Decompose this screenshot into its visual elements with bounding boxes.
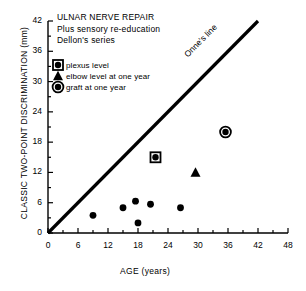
chart-title-line-2: Plus sensory re-education — [57, 24, 160, 34]
data-point-elbow-level-at-one-year — [191, 167, 201, 176]
x-tick-label: 0 — [36, 240, 60, 250]
x-tick-label: 42 — [246, 240, 270, 250]
legend-marker-elbow-level-at-one-year — [53, 71, 63, 80]
legend-marker-graft-at-one-year — [53, 82, 64, 93]
x-tick-label: 12 — [96, 240, 120, 250]
y-tick-label: 36 — [22, 45, 42, 55]
data-point-graft-at-one-year — [220, 127, 231, 138]
data-point-unmarked-cases — [147, 201, 154, 208]
data-point-unmarked-cases — [90, 212, 97, 219]
y-tick-label: 0 — [22, 227, 42, 237]
legend-markers — [53, 60, 64, 92]
y-tick-label: 30 — [22, 76, 42, 86]
axis-ticks — [48, 21, 288, 233]
legend-item-plexus-level: plexus level — [66, 61, 109, 70]
data-point-unmarked-cases — [120, 204, 127, 211]
legend-item-elbow-level: elbow level at one year — [66, 72, 150, 81]
y-tick-label: 18 — [22, 136, 42, 146]
y-tick-label: 42 — [22, 15, 42, 25]
data-point-plexus-level — [151, 152, 161, 162]
x-tick-label: 18 — [126, 240, 150, 250]
data-points — [90, 127, 231, 227]
legend-marker-plexus-level — [53, 60, 63, 70]
chart-title-line-3: Dellon's series — [57, 35, 115, 45]
x-tick-label: 24 — [156, 240, 180, 250]
chart-title-line-1: ULNAR NERVE REPAIR — [57, 12, 154, 22]
x-tick-label: 48 — [276, 240, 300, 250]
data-point-unmarked-cases — [135, 220, 142, 227]
y-tick-label: 24 — [22, 106, 42, 116]
x-tick-label: 6 — [66, 240, 90, 250]
x-axis-label: AGE (years) — [120, 266, 170, 276]
x-tick-label: 30 — [186, 240, 210, 250]
y-tick-label: 6 — [22, 197, 42, 207]
data-point-unmarked-cases — [177, 204, 184, 211]
chart-figure: ULNAR NERVE REPAIR Plus sensory re-educa… — [0, 0, 306, 291]
y-tick-label: 12 — [22, 166, 42, 176]
legend-item-graft: graft at one year — [66, 83, 126, 92]
data-point-unmarked-cases — [132, 198, 139, 205]
x-tick-label: 36 — [216, 240, 240, 250]
